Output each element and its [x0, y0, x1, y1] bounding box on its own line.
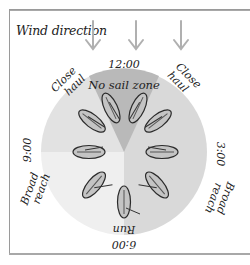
svg-text:3:00: 3:00	[214, 142, 227, 167]
wind-arrow-icon	[174, 21, 188, 49]
no-sail-zone-label: No sail zone	[87, 78, 160, 92]
boat-beam-reach-left	[73, 146, 105, 159]
svg-text:6:00: 6:00	[112, 238, 137, 251]
run-label: Run	[113, 223, 136, 236]
broad-reach-right-label: Broad reach	[202, 175, 237, 219]
boat-beam-reach-right	[146, 146, 178, 159]
wind-arrows	[86, 21, 188, 49]
broad-reach-left-label: Broad reach	[18, 168, 53, 212]
svg-text:9:00: 9:00	[21, 138, 34, 163]
clock-3-label: 3:00	[214, 142, 227, 167]
points-of-sail-diagram: 12:00 No sail zone Close haul Close haul…	[0, 0, 250, 265]
clock-9-label: 9:00	[21, 138, 34, 163]
svg-text:Run: Run	[113, 223, 136, 236]
clock-6-label: 6:00	[112, 238, 137, 251]
clock-12-label: 12:00	[108, 58, 140, 71]
wind-arrow-icon	[86, 21, 100, 49]
wind-arrow-icon	[129, 21, 143, 49]
